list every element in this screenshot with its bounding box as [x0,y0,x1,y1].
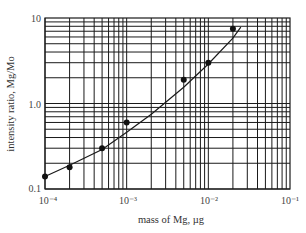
data-point [67,164,73,170]
x-tick-label: 10⁻² [200,195,218,206]
data-point [205,60,211,66]
data-point [99,145,105,151]
fitted-curve [45,27,241,176]
data-point [230,26,236,32]
y-tick-labels: 0.1 1.0 10 [29,13,42,194]
y-tick-label: 10 [31,13,41,24]
x-tick-label: 10⁻³ [119,195,137,206]
data-point [181,77,187,83]
plot-grid [45,18,290,189]
y-axis-label: intensity ratio, Mg/Mo [5,56,16,151]
data-points [42,26,236,180]
data-point [42,174,48,180]
data-point [124,119,130,125]
x-tick-label: 10⁻¹ [281,195,299,206]
x-axis-label: mass of Mg, µg [138,214,205,225]
y-tick-label: 1.0 [29,99,42,110]
x-tick-labels: 10⁻⁴ 10⁻³ 10⁻² 10⁻¹ [39,195,299,206]
x-tick-label: 10⁻⁴ [39,195,58,206]
log-log-chart: 0.1 1.0 10 10⁻⁴ 10⁻³ 10⁻² 10⁻¹ mass of M… [0,0,306,233]
y-tick-label: 0.1 [29,183,42,194]
